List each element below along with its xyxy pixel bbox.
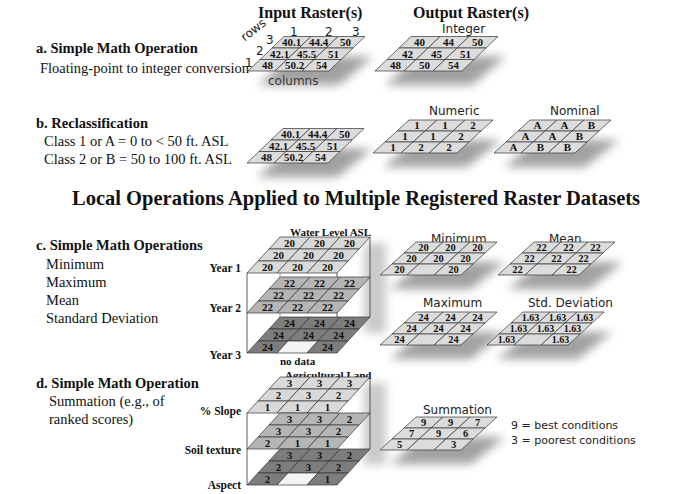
cell-value: 24	[445, 312, 456, 323]
cell-value: 40.1	[282, 36, 301, 48]
cell-value: 24	[472, 312, 483, 323]
cell-value: 2	[336, 389, 342, 401]
cell-value: 20	[394, 264, 405, 275]
input-grid-b: 40.144.45042.145.5514850.254	[247, 128, 372, 177]
agricultural-land-stack-layer-2: 332332211	[247, 413, 370, 449]
cell-value: 1	[295, 401, 301, 413]
cell-value: 9	[421, 417, 426, 428]
cell-value: 5	[397, 439, 402, 450]
cell-value: 1	[390, 141, 396, 153]
cell-value: 20	[406, 253, 417, 264]
cell-value: 42.1	[270, 48, 289, 60]
cell-value: 1	[325, 473, 331, 485]
cell-value: 54	[448, 59, 460, 71]
cell-value: 20	[314, 237, 326, 249]
cell-value: 24	[406, 323, 417, 334]
cell-value: 22	[563, 242, 574, 253]
input-grid-a: 40.144.45042.145.5514850.254	[248, 36, 373, 85]
cell-value: 20	[460, 253, 471, 264]
cell-value: 1	[325, 437, 331, 449]
water-level-stack-layer-3: 2424242424242424	[247, 317, 370, 353]
cell-value: 22	[322, 301, 334, 313]
cell-value: 24	[394, 334, 405, 345]
cell-value: 3	[347, 377, 353, 389]
cell-value: 1.63	[537, 323, 555, 334]
cell-value: 22	[333, 289, 345, 301]
cell-value: 2	[347, 413, 353, 425]
cell-value: A	[549, 130, 557, 142]
cell-value: A	[561, 119, 569, 131]
cell-value: 24	[314, 317, 326, 329]
cell-value: 1	[430, 130, 436, 142]
output-grid-summation: 99779653	[380, 417, 505, 464]
cell-value: 48	[390, 59, 402, 71]
cell-value: 2	[276, 461, 282, 473]
cell-value: 24	[303, 329, 315, 341]
cell-value: 20	[344, 237, 356, 249]
cell-value: 3	[306, 389, 312, 401]
cell-value: 24	[262, 341, 274, 353]
cell-value: 3	[287, 449, 293, 461]
cell-value: 22	[314, 277, 326, 289]
cell-value: 1.63	[498, 334, 516, 345]
cell-value: 3	[306, 461, 312, 473]
cell-value: 2	[347, 449, 353, 461]
water-level-stack-layer-1: 202020202020202020	[247, 237, 370, 273]
cell-value: 20	[472, 242, 483, 253]
cell-value: A	[522, 130, 530, 142]
cell-value: 22	[524, 253, 535, 264]
cell-value: 3	[317, 377, 323, 389]
cell-value: 40.1	[281, 128, 300, 140]
cell-value: 2	[336, 461, 342, 473]
cell-value: 45.5	[297, 48, 317, 60]
cell-value: 20	[448, 264, 459, 275]
cell-value: 22	[284, 277, 296, 289]
cell-value: 50	[339, 128, 351, 140]
cell-value: 1.63	[510, 323, 528, 334]
cell-value: 2	[265, 473, 271, 485]
cell-value: 50	[472, 36, 484, 48]
cell-value: 42.1	[269, 140, 288, 152]
cell-value: 51	[327, 140, 338, 152]
cell-value: 1.63	[552, 334, 570, 345]
cell-value: 22	[292, 301, 304, 313]
cell-value: 22	[536, 242, 547, 253]
cell-value: 9	[436, 428, 441, 439]
cell-value: 22	[551, 253, 562, 264]
cell-value: 45	[431, 48, 443, 60]
cell-value: 22	[566, 264, 577, 275]
cell-value: 22	[273, 289, 285, 301]
cell-value: 1	[325, 401, 331, 413]
cell-value: 20	[418, 242, 429, 253]
cell-value: 1.63	[576, 312, 594, 323]
output-grid-mean: 2222222222222222	[498, 242, 623, 289]
cell-value: 50.2	[285, 59, 305, 71]
cell-value: 20	[303, 249, 315, 261]
cell-value: 20	[433, 253, 444, 264]
cell-value: 3	[287, 377, 293, 389]
cell-value: 24	[284, 317, 296, 329]
cell-value: 3	[287, 413, 293, 425]
cell-value: 9	[448, 417, 453, 428]
cell-value: 24	[460, 323, 471, 334]
cell-value: 54	[315, 151, 327, 163]
cell-value: 24	[273, 329, 285, 341]
cell-value: 2	[446, 141, 452, 153]
cell-value: 20	[284, 237, 296, 249]
cell-value: 20	[322, 261, 334, 273]
cell-value: 1	[295, 437, 301, 449]
cell-value: 2	[458, 130, 464, 142]
cell-value: A	[510, 141, 518, 153]
output-grid-maximum: 2424242424242424	[380, 312, 505, 359]
cell-value: 51	[328, 48, 339, 60]
cell-value: 24	[418, 312, 429, 323]
cell-value: 22	[512, 264, 523, 275]
agricultural-land-stack-layer-3: 33223221	[247, 449, 370, 485]
cell-value: 24	[433, 323, 444, 334]
cell-value: 20	[333, 249, 345, 261]
water-level-stack-layer-2: 222222222222222222	[247, 277, 370, 313]
output-grid-numeric: 112112122	[373, 119, 501, 167]
cell-value: 50.2	[284, 151, 304, 163]
raster-diagram-canvas: 40.144.45042.145.5514850.254404450424551…	[0, 0, 673, 494]
cell-value: B	[537, 141, 545, 153]
